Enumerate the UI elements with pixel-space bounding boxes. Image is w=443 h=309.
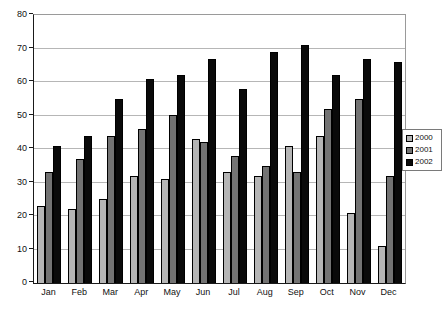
y-tick-label: 50 bbox=[1, 110, 27, 120]
bar-group-nov bbox=[343, 15, 374, 283]
y-axis-tick bbox=[29, 47, 33, 48]
gridline bbox=[34, 81, 405, 82]
bar-group-jul bbox=[220, 15, 251, 283]
y-axis-tick bbox=[29, 281, 33, 282]
gridline bbox=[34, 249, 405, 250]
bar-2000-mar bbox=[99, 199, 107, 283]
bar-2001-feb bbox=[76, 159, 84, 283]
legend-label: 2000 bbox=[415, 134, 433, 142]
bar-2002-may bbox=[177, 75, 185, 283]
plot-area bbox=[33, 14, 406, 284]
gridline bbox=[34, 48, 405, 49]
legend-swatch-icon bbox=[406, 159, 413, 166]
y-axis-tick bbox=[29, 248, 33, 249]
y-axis-tick bbox=[29, 13, 33, 14]
y-tick-label: 30 bbox=[1, 177, 27, 187]
bar-2002-mar bbox=[115, 99, 123, 283]
bar-2000-may bbox=[161, 179, 169, 283]
bar-2001-dec bbox=[386, 176, 394, 283]
bar-2000-jan bbox=[37, 206, 45, 283]
y-tick-label: 70 bbox=[1, 43, 27, 53]
x-tick-label: Jul bbox=[219, 287, 250, 297]
gridline bbox=[34, 182, 405, 183]
bar-2000-jul bbox=[223, 172, 231, 283]
y-axis-tick bbox=[29, 114, 33, 115]
y-axis-tick bbox=[29, 147, 33, 148]
y-tick-label: 80 bbox=[1, 9, 27, 19]
bar-group-jan bbox=[34, 15, 65, 283]
bar-2000-aug bbox=[254, 176, 262, 283]
legend-swatch-icon bbox=[406, 147, 413, 154]
bar-2002-feb bbox=[84, 136, 92, 283]
x-tick-label: Sep bbox=[280, 287, 311, 297]
bar-2001-sep bbox=[293, 172, 301, 283]
gridline bbox=[34, 215, 405, 216]
legend-label: 2002 bbox=[415, 158, 433, 166]
bar-group-jun bbox=[189, 15, 220, 283]
legend-label: 2001 bbox=[415, 146, 433, 154]
bar-group-feb bbox=[65, 15, 96, 283]
bar-group-sep bbox=[281, 15, 312, 283]
legend-item: 2000 bbox=[406, 134, 438, 142]
bar-group-aug bbox=[250, 15, 281, 283]
legend-item: 2001 bbox=[406, 146, 438, 154]
bar-2001-aug bbox=[262, 166, 270, 283]
legend: 200020012002 bbox=[402, 129, 442, 171]
legend-item: 2002 bbox=[406, 158, 438, 166]
x-tick-label: Nov bbox=[342, 287, 373, 297]
bar-2000-oct bbox=[316, 136, 324, 283]
bar-2001-may bbox=[169, 115, 177, 283]
x-tick-label: Jun bbox=[188, 287, 219, 297]
y-tick-label: 0 bbox=[1, 277, 27, 287]
y-tick-label: 10 bbox=[1, 244, 27, 254]
bar-2001-oct bbox=[324, 109, 332, 283]
bar-group-apr bbox=[127, 15, 158, 283]
bar-2002-oct bbox=[332, 75, 340, 283]
x-tick-label: Jan bbox=[33, 287, 64, 297]
y-axis-tick bbox=[29, 80, 33, 81]
bar-2001-mar bbox=[107, 136, 115, 283]
bar-2001-jul bbox=[231, 156, 239, 283]
y-axis-tick bbox=[29, 181, 33, 182]
x-tick-label: May bbox=[157, 287, 188, 297]
gridline bbox=[34, 115, 405, 116]
bar-group-mar bbox=[96, 15, 127, 283]
bar-group-dec bbox=[374, 15, 405, 283]
bar-group-oct bbox=[312, 15, 343, 283]
bar-2000-dec bbox=[378, 246, 386, 283]
x-tick-label: Feb bbox=[64, 287, 95, 297]
bar-2000-feb bbox=[68, 209, 76, 283]
y-tick-label: 60 bbox=[1, 76, 27, 86]
bar-group-may bbox=[158, 15, 189, 283]
bar-2000-apr bbox=[130, 176, 138, 283]
gridline bbox=[34, 148, 405, 149]
bar-chart: 01020304050607080 JanFebMarAprMayJunJulA… bbox=[0, 0, 443, 309]
legend-swatch-icon bbox=[406, 135, 413, 142]
bar-2001-jun bbox=[200, 142, 208, 283]
bar-2001-apr bbox=[138, 129, 146, 283]
y-axis-tick bbox=[29, 214, 33, 215]
bar-2001-nov bbox=[355, 99, 363, 283]
bar-2002-dec bbox=[394, 62, 402, 283]
y-tick-label: 20 bbox=[1, 210, 27, 220]
y-tick-label: 40 bbox=[1, 143, 27, 153]
bar-2001-jan bbox=[45, 172, 53, 283]
x-tick-label: Aug bbox=[249, 287, 280, 297]
bar-2002-jul bbox=[239, 89, 247, 283]
x-tick-label: Dec bbox=[373, 287, 404, 297]
x-tick-label: Mar bbox=[95, 287, 126, 297]
x-tick-label: Apr bbox=[126, 287, 157, 297]
bar-2000-jun bbox=[192, 139, 200, 283]
x-tick-label: Oct bbox=[311, 287, 342, 297]
